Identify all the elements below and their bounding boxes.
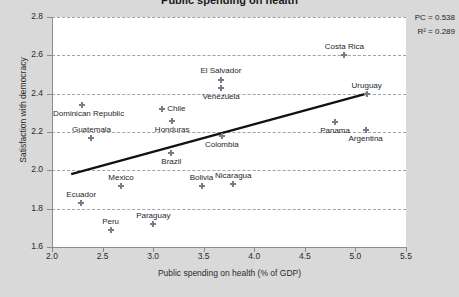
y-tick bbox=[47, 170, 53, 171]
data-point-label: Mexico bbox=[108, 173, 133, 182]
x-axis-title: Public spending on health (% of GDP) bbox=[0, 268, 459, 278]
y-tick-label: 1.8 bbox=[19, 204, 43, 213]
data-point-label: El Salvador bbox=[200, 66, 241, 75]
y-tick bbox=[47, 209, 53, 210]
y-tick bbox=[47, 94, 53, 95]
data-point-label: Peru bbox=[102, 217, 119, 226]
x-axis-line bbox=[52, 247, 406, 248]
data-point-label: Venezuela bbox=[202, 92, 239, 101]
data-point-label: Brazil bbox=[161, 157, 181, 166]
pc-annotation: PC = 0.538 bbox=[415, 13, 455, 22]
chart-title-text: Public spending on health bbox=[0, 0, 459, 6]
data-point-label: Costa Rica bbox=[325, 42, 364, 51]
data-point-label: Uruguay bbox=[352, 81, 382, 90]
chart-title-cropped: Public spending on health bbox=[0, 0, 459, 7]
x-tick-label: 2.0 bbox=[32, 252, 72, 261]
x-tick-label: 4.0 bbox=[234, 252, 274, 261]
x-tick-label: 3.0 bbox=[133, 252, 173, 261]
data-point-label: Panama bbox=[320, 126, 350, 135]
data-point-label: Paraguay bbox=[136, 211, 170, 220]
data-point-label: Ecuador bbox=[66, 190, 96, 199]
y-tick bbox=[47, 17, 53, 18]
y-tick-label: 2.8 bbox=[19, 12, 43, 21]
y-tick bbox=[47, 55, 53, 56]
r2-annotation: R² = 0.289 bbox=[417, 27, 455, 36]
y-axis-title: Satisfaction with democracy bbox=[18, 35, 28, 185]
data-point-label: Colombia bbox=[205, 140, 239, 149]
data-point-label: Honduras bbox=[155, 125, 190, 134]
y-tick bbox=[47, 132, 53, 133]
scatter-chart: Public spending on health Costa RicaEl S… bbox=[0, 0, 459, 297]
x-tick-label: 5.0 bbox=[335, 252, 375, 261]
x-tick-label: 5.5 bbox=[386, 252, 426, 261]
data-point-label: Chile bbox=[167, 104, 185, 113]
data-point-label: Bolivia bbox=[190, 173, 214, 182]
plot-area: Costa RicaEl SalvadorVenezuelaUruguayDom… bbox=[52, 17, 406, 247]
x-tick-label: 3.5 bbox=[184, 252, 224, 261]
data-point-label: Argentina bbox=[349, 134, 383, 143]
x-tick-label: 2.5 bbox=[83, 252, 123, 261]
data-point-label: Guatemala bbox=[72, 125, 111, 134]
data-point-label: Dominican Republic bbox=[53, 109, 124, 118]
x-tick-label: 4.5 bbox=[285, 252, 325, 261]
y-tick-label: 1.6 bbox=[19, 242, 43, 251]
data-point-label: Nicaragua bbox=[215, 171, 251, 180]
